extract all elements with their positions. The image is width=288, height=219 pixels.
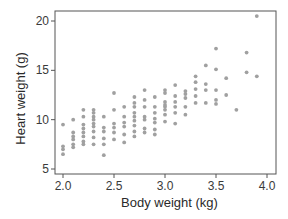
data-point bbox=[173, 105, 177, 109]
data-point bbox=[163, 108, 167, 112]
data-point bbox=[173, 83, 177, 87]
x-axis-label: Body weight (kg) bbox=[121, 195, 218, 210]
data-point bbox=[173, 111, 177, 115]
x-axis-ticks: 2.02.53.03.54.0 bbox=[55, 174, 276, 193]
data-point bbox=[214, 102, 218, 106]
data-point bbox=[92, 125, 96, 129]
data-point bbox=[245, 51, 249, 55]
data-point bbox=[255, 74, 259, 78]
data-point bbox=[71, 131, 75, 135]
y-tick-label: 5 bbox=[42, 162, 49, 176]
x-tick-label: 3.5 bbox=[208, 179, 225, 193]
data-point bbox=[133, 124, 137, 128]
data-point bbox=[92, 136, 96, 140]
data-point bbox=[143, 105, 147, 109]
data-point bbox=[102, 126, 106, 130]
data-point bbox=[224, 76, 228, 80]
data-point bbox=[71, 138, 75, 142]
y-tick-label: 10 bbox=[36, 113, 50, 127]
data-point bbox=[153, 117, 157, 121]
data-point bbox=[61, 152, 65, 156]
data-point bbox=[92, 111, 96, 115]
data-point bbox=[133, 111, 137, 115]
data-point bbox=[204, 101, 208, 105]
data-point bbox=[133, 101, 137, 105]
data-point bbox=[214, 47, 218, 51]
data-point bbox=[153, 121, 157, 125]
data-point bbox=[122, 133, 126, 137]
data-point bbox=[112, 91, 116, 95]
data-point bbox=[102, 142, 106, 146]
y-axis-label: Heart weight (g) bbox=[13, 52, 28, 144]
data-point bbox=[214, 67, 218, 71]
data-point bbox=[163, 91, 167, 95]
data-point bbox=[235, 108, 239, 112]
data-point bbox=[173, 122, 177, 126]
data-point bbox=[102, 130, 106, 134]
data-point bbox=[163, 120, 167, 124]
data-point bbox=[143, 127, 147, 131]
data-point bbox=[112, 122, 116, 126]
data-point bbox=[102, 137, 106, 141]
data-point bbox=[194, 74, 198, 78]
data-point bbox=[194, 87, 198, 91]
data-point bbox=[153, 133, 157, 137]
data-point bbox=[102, 153, 106, 157]
data-point bbox=[133, 130, 137, 134]
x-tick-label: 2.0 bbox=[55, 179, 72, 193]
data-point bbox=[102, 115, 106, 119]
data-point bbox=[122, 141, 126, 145]
data-point bbox=[143, 98, 147, 102]
data-point bbox=[163, 113, 167, 117]
data-point bbox=[82, 108, 86, 112]
data-point bbox=[184, 113, 188, 117]
x-tick-label: 2.5 bbox=[106, 179, 123, 193]
y-tick-label: 15 bbox=[36, 63, 50, 77]
y-axis-ticks: 5101520 bbox=[36, 14, 55, 176]
data-point bbox=[143, 118, 147, 122]
data-point bbox=[82, 123, 86, 127]
data-point bbox=[143, 131, 147, 135]
data-point bbox=[112, 131, 116, 135]
data-point bbox=[112, 138, 116, 142]
data-point bbox=[214, 98, 218, 102]
data-point bbox=[71, 118, 75, 122]
data-point bbox=[82, 131, 86, 135]
x-tick-label: 3.0 bbox=[157, 179, 174, 193]
data-point bbox=[204, 82, 208, 86]
data-point bbox=[71, 145, 75, 149]
data-point bbox=[82, 135, 86, 139]
data-point bbox=[61, 147, 65, 151]
data-points bbox=[61, 14, 259, 157]
data-point bbox=[143, 88, 147, 92]
data-point bbox=[61, 123, 65, 127]
data-point bbox=[245, 70, 249, 74]
data-point bbox=[194, 94, 198, 98]
data-point bbox=[82, 115, 86, 119]
data-point bbox=[194, 101, 198, 105]
data-point bbox=[133, 115, 137, 119]
data-point bbox=[112, 126, 116, 130]
data-point bbox=[194, 80, 198, 84]
data-point bbox=[153, 111, 157, 115]
data-point bbox=[153, 128, 157, 132]
data-point bbox=[204, 64, 208, 68]
data-point bbox=[224, 93, 228, 97]
data-point bbox=[184, 96, 188, 100]
data-point bbox=[92, 142, 96, 146]
data-point bbox=[204, 88, 208, 92]
data-point bbox=[184, 92, 188, 96]
y-tick-label: 20 bbox=[36, 14, 50, 28]
data-point bbox=[133, 135, 137, 139]
data-point bbox=[122, 105, 126, 109]
data-point bbox=[255, 14, 259, 18]
data-point bbox=[122, 125, 126, 129]
data-point bbox=[184, 105, 188, 109]
x-tick-label: 4.0 bbox=[259, 179, 276, 193]
data-point bbox=[92, 118, 96, 122]
data-point bbox=[82, 142, 86, 146]
data-point bbox=[173, 100, 177, 104]
data-point bbox=[173, 94, 177, 98]
data-point bbox=[112, 108, 116, 112]
data-point bbox=[153, 95, 157, 99]
